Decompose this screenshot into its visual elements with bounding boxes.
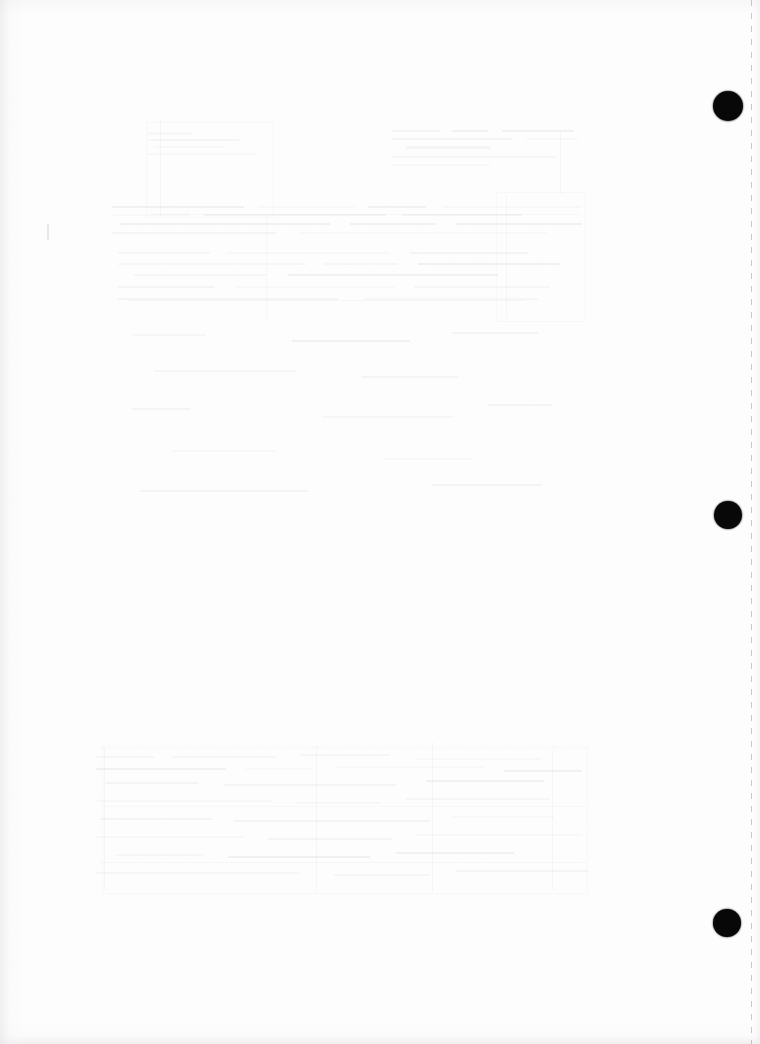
perforation-line [751,0,752,1044]
punch-hole-bottom [713,909,741,937]
paper-background [0,0,760,1044]
right-edge-shadow [754,0,760,1044]
punch-hole-middle [714,501,742,529]
scanned-page: Blank scanned page with three black bind… [0,0,760,1044]
pencil-tick-mark [47,224,49,240]
punch-hole-top [713,91,743,121]
